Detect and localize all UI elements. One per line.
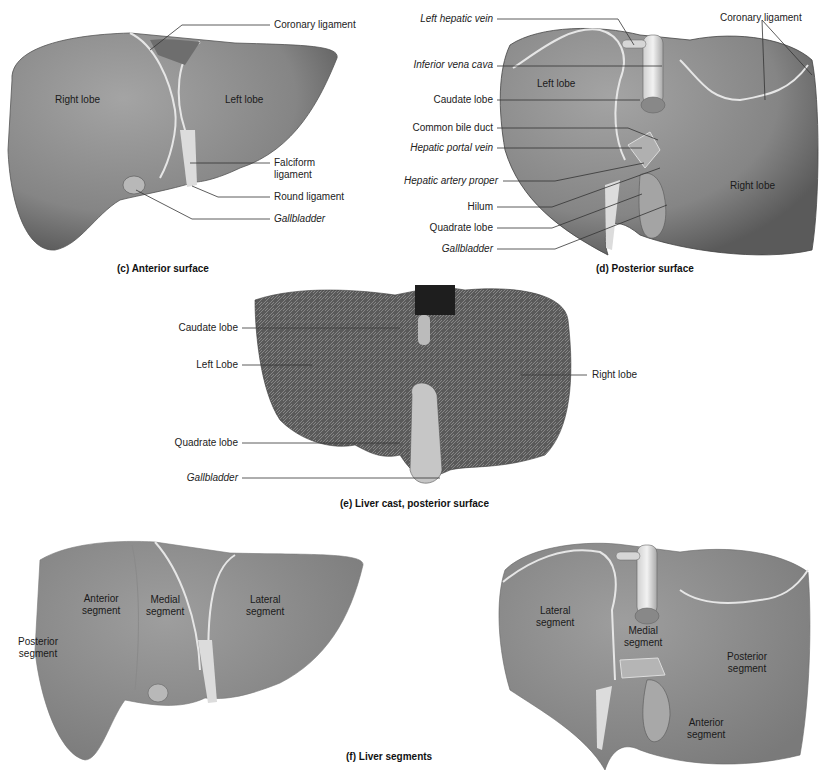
label-coronary-ligament-posterior: Coronary ligament bbox=[720, 12, 802, 24]
segment-posterior-posterior-view: Posterior segment bbox=[727, 651, 767, 675]
label-gallbladder-anterior: Gallbladder bbox=[274, 213, 325, 225]
segment-posterior-anterior-view: Posterior segment bbox=[18, 636, 58, 660]
label-falciform-ligament-line2: ligament bbox=[274, 169, 312, 181]
caption-liver-segments: (f) Liver segments bbox=[346, 751, 432, 762]
label-right-lobe-cast: Right lobe bbox=[592, 369, 637, 381]
label-gallbladder-cast: Gallbladder bbox=[138, 472, 238, 484]
label-left-lobe-cast: Left Lobe bbox=[138, 359, 238, 371]
label-quadrate-lobe-posterior: Quadrate lobe bbox=[393, 222, 493, 234]
label-hilum: Hilum bbox=[393, 201, 493, 213]
label-inferior-vena-cava: Inferior vena cava bbox=[393, 59, 493, 71]
segment-anterior-anterior-view: Anterior segment bbox=[82, 593, 120, 617]
liver-segments-anterior bbox=[35, 541, 363, 760]
label-caudate-lobe-cast: Caudate lobe bbox=[138, 322, 238, 334]
liver-cast-photo bbox=[255, 285, 571, 483]
label-falciform-ligament-line1: Falciform bbox=[274, 157, 315, 169]
posterior-surface-liver bbox=[500, 28, 818, 255]
segment-medial-posterior-view: Medial segment bbox=[624, 625, 662, 649]
label-common-bile-duct: Common bile duct bbox=[393, 122, 493, 134]
segment-lateral-anterior-view: Lateral segment bbox=[246, 594, 284, 618]
label-coronary-ligament-anterior: Coronary ligament bbox=[274, 19, 356, 31]
segment-medial-anterior-view: Medial segment bbox=[146, 594, 184, 618]
caption-liver-cast: (e) Liver cast, posterior surface bbox=[340, 498, 489, 509]
caption-anterior-surface: (c) Anterior surface bbox=[117, 263, 209, 274]
label-hepatic-artery-proper: Hepatic artery proper bbox=[383, 175, 498, 187]
region-right-lobe-anterior: Right lobe bbox=[55, 94, 100, 106]
liver-diagram-artwork bbox=[0, 0, 829, 775]
label-left-hepatic-vein: Left hepatic vein bbox=[393, 13, 493, 25]
label-caudate-lobe-posterior: Caudate lobe bbox=[393, 94, 493, 106]
caption-posterior-surface: (d) Posterior surface bbox=[596, 263, 694, 274]
label-gallbladder-posterior: Gallbladder bbox=[393, 243, 493, 255]
label-quadrate-lobe-cast: Quadrate lobe bbox=[138, 437, 238, 449]
segment-anterior-posterior-view: Anterior segment bbox=[687, 717, 725, 741]
region-left-lobe-anterior: Left lobe bbox=[225, 94, 263, 106]
region-left-lobe-posterior: Left lobe bbox=[537, 78, 575, 90]
segment-lateral-posterior-view: Lateral segment bbox=[536, 605, 574, 629]
label-hepatic-portal-vein: Hepatic portal vein bbox=[393, 142, 493, 154]
region-right-lobe-posterior: Right lobe bbox=[730, 180, 775, 192]
label-round-ligament: Round ligament bbox=[274, 191, 344, 203]
